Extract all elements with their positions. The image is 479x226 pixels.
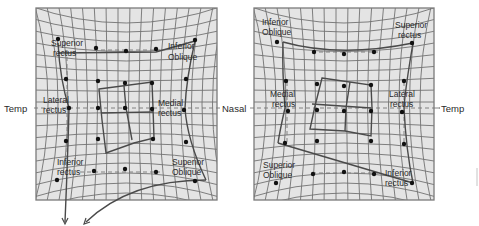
label-bottom-left-l1: Superior	[263, 160, 295, 170]
label-bottom-right-l1: Superior	[172, 157, 204, 167]
side-label-nasal: Nasal	[222, 103, 246, 114]
side-label-temp: Temp	[441, 103, 464, 114]
right-eye-grid: Inferior Oblique Superior rectus Medial …	[248, 2, 464, 222]
label-mid-left-l2: rectus	[43, 105, 66, 115]
label-mid-right-l1: Lateral	[389, 89, 415, 99]
label-top-right-l1: Superior	[395, 20, 427, 30]
label-top-left-l2: Oblique	[262, 27, 292, 37]
label-top-right-l2: Oblique	[168, 52, 198, 62]
label-bottom-left-l2: rectus	[57, 167, 80, 177]
side-label-temp: Temp	[4, 103, 27, 114]
label-top-left-l1: Superior	[51, 38, 83, 48]
label-bottom-left-l2: Oblique	[263, 170, 293, 180]
label-bottom-right-l2: rectus	[385, 178, 408, 188]
label-top-left-l1: Inferior	[262, 17, 289, 27]
label-mid-right-l1: Medial	[158, 98, 183, 108]
label-top-right-l2: rectus	[398, 30, 421, 40]
label-mid-right-l2: rectus	[158, 108, 181, 118]
label-top-right-l1: Inferior	[168, 41, 195, 51]
label-bottom-left-l1: Inferior	[57, 157, 84, 167]
left-eye-grid: Superior rectus Inferior Oblique Lateral…	[3, 2, 238, 224]
label-mid-left-l1: Lateral	[43, 95, 69, 105]
label-mid-left-l1: Medial	[270, 89, 295, 99]
label-bottom-right-l1: Inferior	[385, 168, 412, 178]
label-bottom-right-l2: Oblique	[172, 167, 202, 177]
label-top-left-l2: rectus	[53, 48, 76, 58]
label-mid-left-l2: rectus	[272, 99, 295, 109]
hess-chart-diagram: Superior rectus Inferior Oblique Lateral…	[0, 0, 479, 226]
label-mid-right-l2: rectus	[390, 99, 413, 109]
